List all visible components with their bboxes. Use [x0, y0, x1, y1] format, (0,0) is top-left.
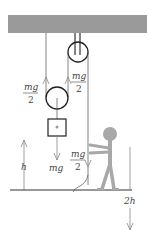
height-label: h	[21, 162, 27, 172]
pull-distance-label: 2h	[123, 196, 136, 206]
person-arm-upper	[90, 145, 109, 148]
pull-denominator: 2	[75, 162, 81, 172]
person-arm-lower	[90, 152, 109, 153]
weight-label: mg	[49, 163, 64, 173]
left-tension-denominator: 2	[28, 95, 34, 105]
person-head	[103, 127, 117, 141]
pulley-diagram: mg 2 mg 2 mg mg 2 h 2h	[0, 0, 156, 242]
person	[90, 127, 119, 189]
left-tension-numerator: mg	[24, 82, 39, 92]
right-tension-denominator: 2	[76, 84, 82, 94]
person-leg-left	[102, 164, 110, 189]
ceiling	[8, 15, 147, 33]
right-tension-numerator: mg	[72, 71, 87, 81]
pull-numerator: mg	[71, 149, 86, 159]
fixed-pulley	[68, 42, 88, 62]
person-leg-right	[110, 164, 114, 189]
